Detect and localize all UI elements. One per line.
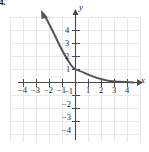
y-tick-label--4: −4 [62, 126, 71, 135]
y-tick-label--3: −3 [62, 113, 71, 122]
y-tick-label-2: 2 [65, 52, 69, 61]
coordinate-plane [0, 0, 149, 152]
x-tick-label--2: −2 [44, 86, 53, 95]
x-tick-label-1: 1 [86, 86, 90, 95]
curve-arrowhead [41, 10, 48, 19]
y-tick-label--2: −2 [62, 100, 71, 109]
x-tick-label-2: 2 [99, 86, 103, 95]
y-tick-label-4: 4 [65, 26, 69, 35]
y-tick-label--1: −1 [64, 87, 73, 96]
y-axis-arrowhead [73, 9, 79, 15]
y-tick-label-3: 3 [65, 39, 69, 48]
x-tick-label--4: −4 [18, 86, 27, 95]
x-tick-label-4: 4 [125, 86, 129, 95]
y-tick-label-1: 1 [66, 65, 70, 74]
x-axis-label: x [141, 76, 145, 85]
exponential-curve [41, 10, 134, 82]
exponential-graph-figure: 4. [0, 0, 149, 152]
y-axis-label: y [79, 3, 83, 12]
x-tick-label--3: −3 [31, 86, 40, 95]
x-tick-label-3: 3 [112, 86, 116, 95]
